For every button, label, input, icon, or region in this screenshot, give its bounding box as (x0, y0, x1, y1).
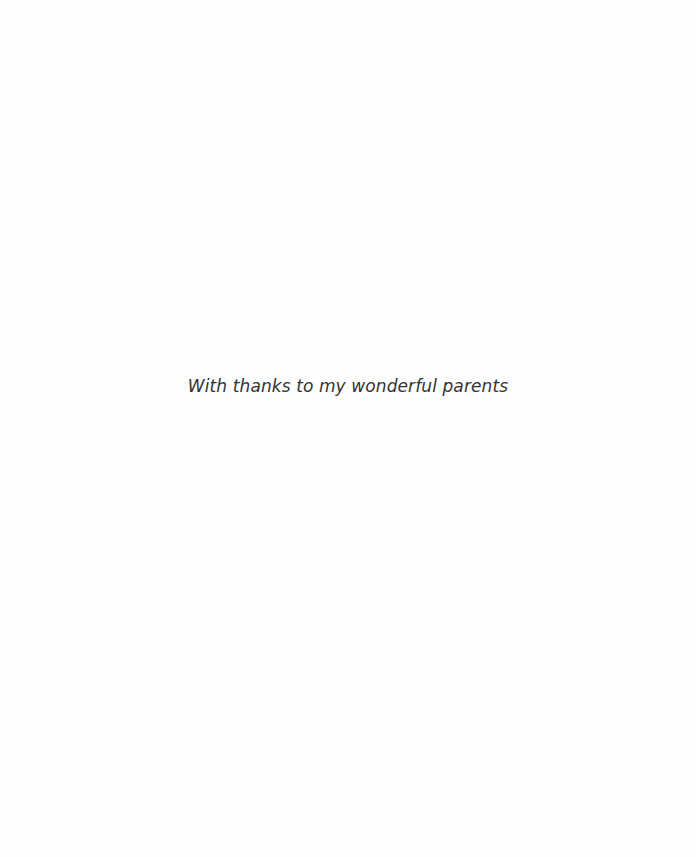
dedication-text: With thanks to my wonderful parents (0, 374, 696, 398)
dedication-page: With thanks to my wonderful parents (0, 0, 696, 857)
